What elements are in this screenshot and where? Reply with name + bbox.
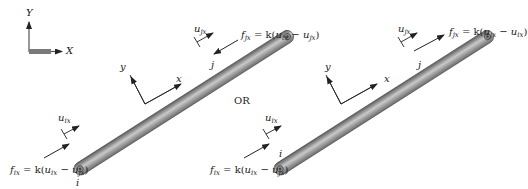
force-j-arrow-1 [214, 40, 238, 54]
force-j-equation-2: fjx = k(ujx − uix) [449, 27, 527, 39]
disp-j-label-1: ujx [194, 24, 207, 36]
disp-sub: jx [200, 28, 206, 36]
eq-close: ) [524, 26, 528, 37]
node-j-label-2: j [418, 60, 421, 70]
eq-close: ) [285, 164, 289, 175]
eq-eq: = k( [220, 164, 245, 175]
local-axes-1-icon [130, 75, 181, 104]
eq-close: ) [316, 29, 320, 40]
disp-sub: ix [271, 117, 277, 125]
force-i-equation-2: fix = k(uix − ujx) [210, 165, 288, 177]
disp-sub: ix [64, 117, 70, 125]
local-x-label-2: x [384, 74, 390, 84]
eq-close: ) [85, 164, 89, 175]
eq-minus: − [288, 29, 303, 40]
disp-i-label-1: uix [58, 113, 71, 125]
disp-sub: jx [404, 28, 410, 36]
force-j-equation-1: fjx = k(uix − ujx) [241, 30, 319, 42]
eq-eq: = k( [459, 26, 484, 37]
spring-bar-2 [272, 28, 497, 178]
eq-minus: − [257, 164, 272, 175]
spring-bar-1 [72, 28, 297, 178]
disp-i-label-2: uix [265, 113, 278, 125]
truss-element-diagram: Y X OR i j y x uix ujx fix = k(uix − ujx… [0, 0, 528, 189]
global-axes-icon [29, 22, 62, 54]
force-i-equation-1: fix = k(uix − ujx) [10, 165, 88, 177]
local-x-label-1: x [176, 74, 182, 84]
disp-j-label-2: ujx [398, 24, 411, 36]
or-separator: OR [234, 96, 250, 106]
node-i-label-1: i [76, 178, 79, 188]
local-y-label-2: y [325, 62, 331, 72]
force-j-arrow-2 [414, 35, 444, 51]
eq-eq: = k( [251, 29, 276, 40]
eq-minus: − [57, 164, 72, 175]
eq-minus: − [496, 26, 511, 37]
global-y-label: Y [26, 8, 33, 18]
node-i-label-2: i [279, 149, 282, 159]
eq-eq: = k( [20, 164, 45, 175]
disp-i-arrow-2 [263, 126, 281, 139]
node-j-label-1: j [211, 60, 214, 70]
disp-i-arrow-1 [61, 126, 79, 139]
global-x-label: X [66, 46, 73, 56]
force-i-arrow-1 [44, 144, 69, 158]
local-y-label-1: y [120, 62, 126, 72]
local-axes-2-icon [326, 75, 377, 104]
force-i-arrow-2 [244, 144, 269, 158]
